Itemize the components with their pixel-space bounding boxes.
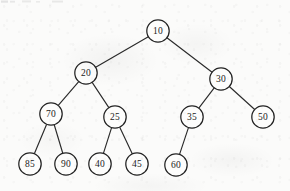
tree-edge-35-60 [180,128,189,155]
tree-node-30: 30 [210,68,232,90]
tree-edge-70-90 [54,125,63,154]
tree-edge-25-40 [103,128,111,154]
tree-edge-30-35 [199,88,214,108]
tree-node-label-30: 30 [216,74,226,84]
tree-node-label-50: 50 [258,112,268,122]
tree-edge-10-20 [96,37,149,68]
tree-node-label-90: 90 [61,159,71,169]
tree-node-10: 10 [147,20,169,42]
binary-tree-svg: 102030702535508590404560 [0,0,290,191]
tree-edges-group [34,37,254,155]
tree-edge-70-85 [34,124,46,153]
tree-edge-10-30 [167,38,212,72]
tree-node-40: 40 [89,153,111,175]
tree-node-70: 70 [40,103,62,125]
tree-node-label-85: 85 [25,159,35,169]
tree-node-label-60: 60 [171,160,181,170]
tree-node-label-25: 25 [110,112,120,122]
tree-node-label-20: 20 [81,68,91,78]
tree-node-label-35: 35 [187,112,197,122]
tree-node-20: 20 [75,62,97,84]
tree-node-label-70: 70 [46,109,56,119]
tree-node-50: 50 [252,106,274,128]
tree-edge-30-50 [229,87,254,110]
tree-node-85: 85 [19,153,41,175]
tree-edge-20-25 [92,82,109,107]
tree-edge-20-70 [58,82,78,106]
tree-diagram-page: 102030702535508590404560 [0,0,290,191]
tree-nodes-group: 102030702535508590404560 [19,20,274,176]
tree-node-label-40: 40 [95,159,105,169]
tree-node-60: 60 [165,154,187,176]
tree-edge-25-45 [120,127,133,154]
tree-node-35: 35 [181,106,203,128]
tree-node-label-10: 10 [153,26,163,36]
tree-node-45: 45 [126,153,148,175]
tree-node-25: 25 [104,106,126,128]
tree-node-90: 90 [55,153,77,175]
tree-node-label-45: 45 [132,159,142,169]
